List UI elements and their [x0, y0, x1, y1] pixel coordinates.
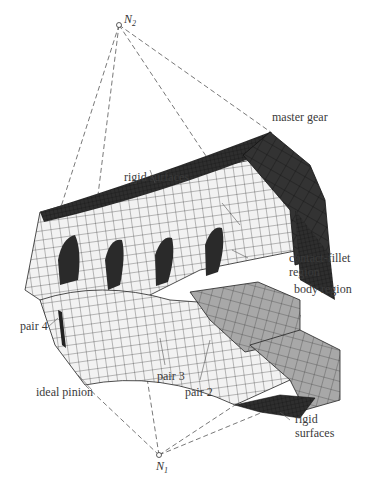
node-n2-marker — [117, 23, 122, 28]
label-ideal-pinion: ideal pinion — [36, 386, 93, 399]
node-n2-label: N2 — [124, 12, 136, 28]
label-rigid-surfaces-top: rigid surfaces — [124, 171, 189, 184]
label-pair-4: pair 4 — [20, 320, 48, 333]
node-n1-marker — [157, 453, 162, 458]
label-master-gear: master gear — [272, 111, 328, 124]
label-pair-2: pair 2 — [185, 386, 213, 399]
label-surfaces: surfaces — [295, 427, 334, 440]
label-contact-fillet-region: region — [289, 266, 320, 279]
label-contact-fillet: contact-fillet — [289, 252, 350, 265]
node-n1-label: N1 — [156, 459, 168, 475]
label-rigid: rigid — [295, 413, 318, 426]
label-body-region: body region — [294, 283, 352, 296]
label-pair-3: pair 3 — [157, 370, 185, 383]
